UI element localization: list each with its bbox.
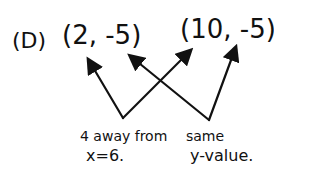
arrow-to-x-right (123, 54, 187, 118)
note-same-y-line2: y-value. (190, 146, 253, 165)
note-x-distance-line1: 4 away from (80, 128, 167, 144)
note-same-y-line1: same (186, 128, 224, 144)
arrow-to-y-right (209, 52, 234, 120)
note-x-distance-line2: x=6. (86, 146, 124, 165)
arrow-to-x-left (91, 64, 123, 118)
